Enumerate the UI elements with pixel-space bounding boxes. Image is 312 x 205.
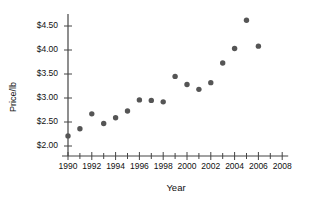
data-point (208, 80, 213, 85)
plot-area (0, 0, 312, 205)
data-point (184, 82, 189, 87)
data-point (77, 126, 82, 131)
data-point (149, 98, 154, 103)
data-point (113, 115, 118, 120)
scatter-chart: Price/lb Year $2.00$2.50$3.00$3.50$4.00$… (0, 0, 312, 205)
data-point (232, 46, 237, 51)
data-point (65, 133, 70, 138)
data-point (172, 74, 177, 79)
data-point (244, 18, 249, 23)
data-point (256, 43, 261, 48)
data-point (89, 111, 94, 116)
data-point (125, 108, 130, 113)
data-point (137, 97, 142, 102)
data-point (196, 87, 201, 92)
data-point (101, 121, 106, 126)
data-point (161, 99, 166, 104)
data-point (220, 60, 225, 65)
